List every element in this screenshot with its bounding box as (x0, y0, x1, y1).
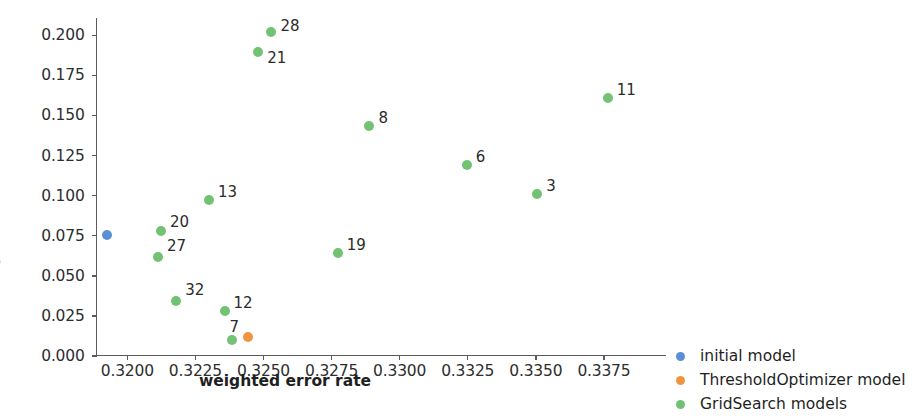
y-tick-label: 0.175 (41, 66, 84, 84)
y-tick-mark (92, 155, 97, 156)
data-point-13[interactable] (204, 195, 214, 205)
data-point-3[interactable] (532, 189, 542, 199)
data-point-label: 27 (167, 237, 186, 255)
x-tick-mark (603, 355, 604, 360)
legend-marker-icon (676, 376, 685, 385)
data-point[interactable] (243, 332, 253, 342)
data-point-7[interactable] (227, 335, 237, 345)
data-point-label: 12 (234, 294, 253, 312)
data-point-label: 19 (347, 236, 366, 254)
x-tick-label: 0.3375 (577, 362, 630, 380)
data-point-label: 6 (476, 148, 486, 166)
data-point-label: 28 (280, 17, 299, 35)
data-point-27[interactable] (153, 252, 163, 262)
data-point-label: 20 (170, 213, 189, 231)
scatter-chart-figure: 0.0000.0250.0500.0750.1000.1250.1500.175… (0, 0, 920, 418)
data-point-label: 32 (185, 281, 204, 299)
y-tick-mark (92, 35, 97, 36)
x-tick-mark (263, 355, 264, 360)
x-tick-mark (535, 355, 536, 360)
y-tick-label: 0.125 (41, 147, 84, 165)
x-tick-mark (127, 355, 128, 360)
y-tick-label: 0.050 (41, 267, 84, 285)
data-point-label: 11 (617, 81, 636, 99)
y-tick-label: 0.200 (41, 26, 84, 44)
x-tick-mark (331, 355, 332, 360)
data-point-12[interactable] (220, 306, 230, 316)
x-tick-mark (195, 355, 196, 360)
y-tick-mark (92, 75, 97, 76)
x-tick-mark (399, 355, 400, 360)
y-tick-mark (92, 115, 97, 116)
y-tick-mark (92, 315, 97, 316)
y-tick-mark (92, 195, 97, 196)
y-tick-label: 0.100 (41, 187, 84, 205)
data-point-32[interactable] (171, 296, 181, 306)
y-axis-spine (96, 18, 97, 356)
x-axis-spine (96, 355, 666, 356)
data-point-label: 13 (218, 183, 237, 201)
y-tick-mark (92, 235, 97, 236)
y-axis-title: equalized odds difference (0, 55, 1, 281)
data-point-8[interactable] (364, 121, 374, 131)
data-point-label: 8 (378, 109, 388, 127)
legend-label: GridSearch models (700, 395, 847, 413)
x-tick-label: 0.3300 (373, 362, 426, 380)
data-point[interactable] (102, 230, 112, 240)
data-point-28[interactable] (266, 27, 276, 37)
legend-marker-icon (676, 400, 685, 409)
legend-label: ThresholdOptimizer model (700, 371, 905, 389)
data-point-19[interactable] (333, 248, 343, 258)
data-point-6[interactable] (462, 160, 472, 170)
data-point-label: 7 (230, 318, 240, 336)
y-tick-mark (92, 355, 97, 356)
x-tick-label: 0.3325 (441, 362, 494, 380)
x-tick-label: 0.3200 (101, 362, 154, 380)
y-tick-mark (92, 275, 97, 276)
legend-item[interactable]: initial model (676, 344, 920, 368)
y-tick-label: 0.075 (41, 227, 84, 245)
data-point-21[interactable] (253, 47, 263, 57)
y-tick-label: 0.150 (41, 106, 84, 124)
x-tick-label: 0.3350 (509, 362, 562, 380)
data-point-label: 21 (267, 49, 286, 67)
legend-label: initial model (700, 347, 796, 365)
plot-area: 0.0000.0250.0500.0750.1000.1250.1500.175… (96, 18, 666, 356)
data-point-11[interactable] (603, 93, 613, 103)
legend-marker-icon (676, 352, 685, 361)
data-point-label: 3 (546, 177, 556, 195)
y-tick-label: 0.025 (41, 307, 84, 325)
data-point-20[interactable] (156, 226, 166, 236)
x-axis-title: weighted error rate (199, 372, 371, 390)
chart-legend: initial modelThresholdOptimizer modelGri… (676, 344, 920, 416)
legend-item[interactable]: GridSearch models (676, 392, 920, 416)
x-tick-mark (467, 355, 468, 360)
legend-item[interactable]: ThresholdOptimizer model (676, 368, 920, 392)
y-tick-label: 0.000 (41, 347, 84, 365)
